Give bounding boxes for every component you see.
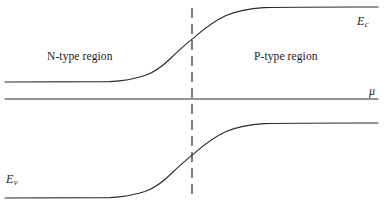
valence-band-label-subscript: v — [13, 177, 17, 187]
band-diagram-figure: N-type region P-type region Ec μ Ev — [0, 0, 385, 206]
conduction-band-label: Ec — [357, 14, 368, 29]
chemical-potential-label: μ — [369, 84, 375, 99]
conduction-band-label-subscript: c — [364, 19, 368, 29]
band-diagram-plot — [0, 0, 385, 206]
valence-band-label: Ev — [6, 172, 17, 187]
n-type-region-label: N-type region — [47, 50, 113, 62]
p-type-region-label: P-type region — [254, 50, 318, 62]
